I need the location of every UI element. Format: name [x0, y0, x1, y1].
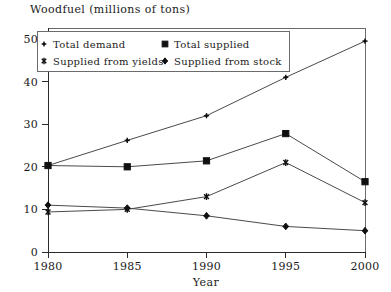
asterisk-marker	[283, 159, 288, 166]
y-tick-label: 50	[23, 33, 38, 46]
y-tick-label: 10	[23, 203, 38, 216]
square-marker	[162, 41, 168, 47]
square-marker	[283, 130, 289, 136]
diamond-marker	[45, 202, 51, 209]
plus-marker	[283, 75, 288, 80]
y-tick-label: 40	[23, 76, 38, 89]
legend-entry-total-demand: Total demand	[42, 39, 126, 50]
legend-entry-supplied-from-stock: Supplied from stock	[162, 56, 282, 67]
x-tick-label: 1985	[113, 260, 142, 273]
y-tick-label: 20	[23, 161, 38, 174]
square-icon	[162, 41, 168, 47]
x-axis-ticks	[48, 252, 365, 258]
square-marker	[124, 164, 130, 170]
legend-label: Supplied from yields	[53, 56, 164, 67]
diamond-marker	[203, 212, 209, 219]
x-tick-label: 1980	[33, 260, 62, 273]
y-tick-label: 0	[31, 246, 38, 259]
plus-marker	[125, 138, 130, 143]
square-marker	[203, 158, 209, 164]
legend-label: Total supplied	[174, 39, 250, 50]
x-tick-label: 1995	[271, 260, 300, 273]
y-axis-tick-labels: 0 10 20 30 40 50	[23, 33, 38, 259]
x-tick-label: 2000	[350, 260, 379, 273]
woodfuel-line-chart: 0 10 20 30 40 50 1980 1985 1990 1995 200…	[0, 0, 391, 292]
series-supplied-from-stock	[45, 202, 368, 234]
asterisk-marker	[363, 199, 368, 206]
series-total-supplied	[45, 130, 368, 184]
plus-marker	[204, 113, 209, 118]
legend-entry-supplied-from-yields: Supplied from yields	[42, 56, 164, 67]
chart-page: Woodfuel (millions of tons) 0 10 20 30 4…	[0, 0, 391, 292]
legend-entry-total-supplied: Total supplied	[162, 39, 250, 50]
chart-legend: Total demand Total supplied Supplied fro…	[37, 31, 289, 71]
diamond-marker	[362, 227, 368, 234]
x-axis-tick-labels: 1980 1985 1990 1995 2000	[33, 260, 379, 273]
diamond-marker	[283, 223, 289, 230]
plus-marker	[362, 39, 367, 44]
square-marker	[362, 179, 368, 185]
legend-label: Supplied from stock	[174, 56, 282, 67]
x-tick-label: 1990	[192, 260, 221, 273]
diamond-marker	[124, 205, 130, 212]
square-marker	[45, 162, 51, 168]
legend-label: Total demand	[53, 39, 126, 50]
x-axis-title: Year	[192, 276, 220, 289]
y-tick-label: 30	[23, 118, 38, 131]
